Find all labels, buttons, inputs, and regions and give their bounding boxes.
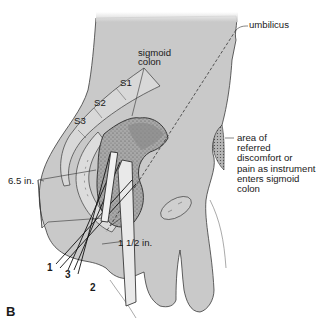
instrument-3-label: 3 <box>65 270 71 280</box>
instrument-2-label: 2 <box>90 283 96 293</box>
s3-label: S3 <box>74 116 86 126</box>
instrument-1-label: 1 <box>47 263 53 273</box>
sigmoidoscopy-diagram: umbilicus sigmoid colon S1 S2 S3 6.5 in.… <box>0 0 328 328</box>
sigmoid-colon-label-line2: colon <box>138 57 161 67</box>
referred-area-label: area of referred discomfort or pain as i… <box>237 133 315 194</box>
s1-label: S1 <box>120 78 132 88</box>
referred-area-line-6: colon <box>237 184 315 194</box>
s2-label: S2 <box>94 98 106 108</box>
distance-6-5-in-label: 6.5 in. <box>8 176 34 186</box>
panel-letter: B <box>6 307 15 317</box>
umbilicus-label: umbilicus <box>249 20 289 30</box>
distance-1-5-in-label: 1 1/2 in. <box>118 238 152 248</box>
